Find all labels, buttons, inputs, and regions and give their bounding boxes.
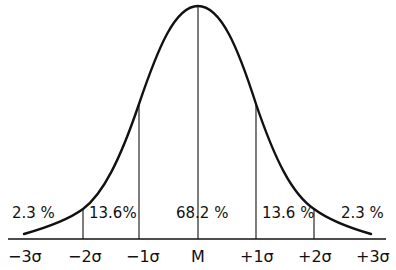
region-center-label: 68.2 % (176, 204, 228, 222)
region-left-mid-label: 13.6% (89, 204, 137, 222)
region-right-mid-label: 13.6 % (262, 204, 314, 222)
tick-minus-2-sigma: −2σ (68, 247, 102, 266)
tick-minus-3-sigma: −3σ (8, 247, 42, 266)
normal-distribution-diagram: 2.3 % 13.6% 68.2 % 13.6 % 2.3 % −3σ −2σ … (0, 0, 396, 270)
tick-minus-1-sigma: −1σ (126, 247, 160, 266)
region-right-tail-label: 2.3 % (341, 204, 384, 222)
region-left-tail-label: 2.3 % (12, 204, 55, 222)
tick-plus-1-sigma: +1σ (240, 247, 274, 266)
tick-mean: M (191, 247, 205, 266)
tick-plus-2-sigma: +2σ (298, 247, 332, 266)
tick-plus-3-sigma: +3σ (356, 247, 390, 266)
